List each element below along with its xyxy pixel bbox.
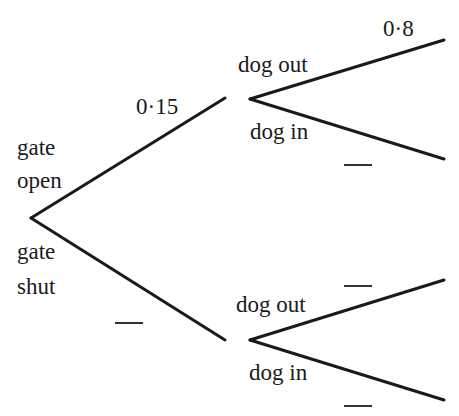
label-gate-open-1: gate xyxy=(17,135,55,161)
blank-open-dog-in[interactable] xyxy=(344,164,372,166)
prob-gate-open: 0·15 xyxy=(136,94,178,120)
branch-gate-open xyxy=(31,98,225,218)
prob-open-dog-out: 0·8 xyxy=(383,16,414,42)
label-gate-open-2: open xyxy=(17,168,62,194)
blank-gate-shut[interactable] xyxy=(115,322,143,324)
label-gate-shut-1: gate xyxy=(17,239,55,265)
label-open-dog-in: dog in xyxy=(250,119,308,145)
label-open-dog-out: dog out xyxy=(238,52,308,78)
blank-shut-dog-out[interactable] xyxy=(344,285,372,287)
label-gate-shut-2: shut xyxy=(17,274,55,300)
label-shut-dog-out: dog out xyxy=(236,292,306,318)
label-shut-dog-in: dog in xyxy=(249,360,307,386)
tree-branches xyxy=(0,0,459,416)
blank-shut-dog-in[interactable] xyxy=(344,405,372,407)
